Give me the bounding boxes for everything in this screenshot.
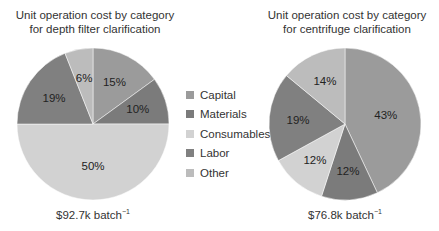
slice-label: 43% bbox=[374, 109, 397, 121]
legend-item-consumables: Consumables bbox=[186, 124, 270, 144]
legend-label: Labor bbox=[200, 147, 229, 159]
slice-label: 50% bbox=[81, 160, 104, 172]
slice-label: 19% bbox=[43, 92, 66, 104]
legend-item-materials: Materials bbox=[186, 105, 270, 125]
legend-item-labor: Labor bbox=[186, 144, 270, 164]
legend-label: Materials bbox=[200, 108, 247, 120]
legend-label: Consumables bbox=[200, 128, 270, 140]
right-total: $76.8k batch bbox=[308, 209, 374, 221]
legend-label: Capital bbox=[200, 89, 236, 101]
slice-label: 10% bbox=[126, 103, 149, 115]
legend-swatch bbox=[186, 130, 194, 138]
figure: Unit operation cost by category for dept… bbox=[0, 0, 439, 231]
left-total-sup: −1 bbox=[122, 208, 130, 215]
slice-label: 12% bbox=[303, 154, 326, 166]
legend-swatch bbox=[186, 149, 194, 157]
slice-label: 15% bbox=[103, 76, 126, 88]
legend-swatch bbox=[186, 110, 194, 118]
slice-label: 12% bbox=[336, 165, 359, 177]
legend-swatch bbox=[186, 91, 194, 99]
legend-item-capital: Capital bbox=[186, 85, 270, 105]
legend-swatch bbox=[186, 169, 194, 177]
legend-item-other: Other bbox=[186, 163, 270, 183]
slice-label: 14% bbox=[313, 75, 336, 87]
legend-label: Other bbox=[200, 167, 229, 179]
slice-label: 19% bbox=[287, 114, 310, 126]
right-total-sup: −1 bbox=[374, 208, 382, 215]
left-total: $92.7k batch bbox=[56, 209, 122, 221]
legend: CapitalMaterialsConsumablesLaborOther bbox=[186, 85, 270, 183]
left-total-caption: $92.7k batch−1 bbox=[43, 208, 143, 221]
slice-label: 6% bbox=[76, 72, 93, 84]
right-total-caption: $76.8k batch−1 bbox=[295, 208, 395, 221]
